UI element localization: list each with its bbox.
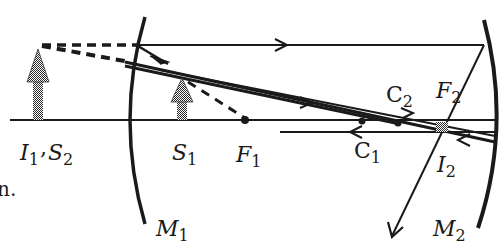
diagonal-ray-m2 <box>392 45 484 236</box>
ray-bundle-lower <box>125 66 400 124</box>
virtual-ray-dashed-lower <box>42 46 130 62</box>
arrow-i1-s2 <box>27 49 49 120</box>
label-f1: F1 <box>235 142 261 171</box>
point-c1 <box>359 118 366 125</box>
label-s2: S2 <box>48 140 73 169</box>
i2-image-spot <box>436 122 448 132</box>
label-s1: S1 <box>172 140 197 169</box>
label-m2: M2 <box>432 216 466 245</box>
cropped-text-fragment: n. <box>0 177 16 201</box>
point-f1 <box>241 116 249 124</box>
label-i2: I2 <box>436 152 456 181</box>
two-mirror-ray-diagram: I1 , S2 S1 F1 C2 F2 C1 I2 M1 M2 n. <box>0 0 503 248</box>
label-comma: , <box>40 135 47 160</box>
point-c2 <box>395 120 402 127</box>
label-m1: M1 <box>155 216 189 245</box>
label-f2: F2 <box>435 78 461 107</box>
label-c1: C1 <box>354 138 381 167</box>
label-i1: I1 <box>19 140 39 169</box>
label-c2: C2 <box>386 82 413 111</box>
